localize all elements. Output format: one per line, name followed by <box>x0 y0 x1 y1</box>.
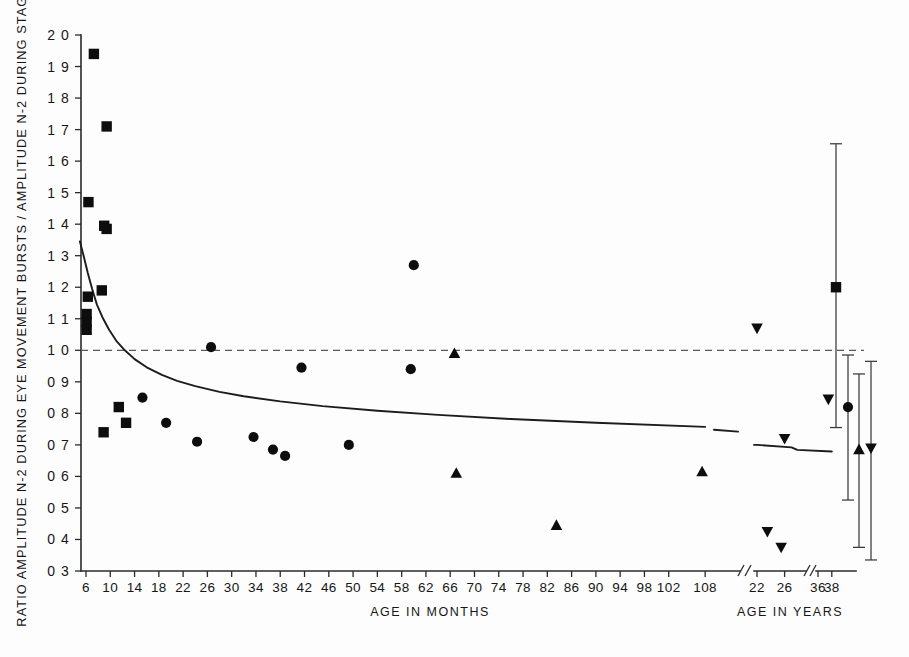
data-point-infants-10 <box>114 402 124 412</box>
x-tick-label-month-82: 82 <box>539 580 555 595</box>
error-bar-mean-adolescents <box>853 444 865 455</box>
x-tick-label-month-46: 46 <box>321 580 337 595</box>
x-tick-label-month-66: 66 <box>442 580 458 595</box>
x-tick-label-month-30: 30 <box>224 580 240 595</box>
y-tick-label-12: 0 8 <box>47 405 70 421</box>
data-point-children-0 <box>409 260 419 270</box>
x-tick-label-month-78: 78 <box>515 580 531 595</box>
x-tick-label-month-108: 108 <box>693 580 717 595</box>
data-point-children-3 <box>406 364 416 374</box>
data-point-adults-3 <box>762 527 774 538</box>
axis-break-slash-1 <box>745 565 751 576</box>
y-tick-label-11: 0 9 <box>47 374 70 390</box>
x-axis-title-months: AGE IN MONTHS <box>370 605 490 619</box>
data-point-children-9 <box>268 445 278 455</box>
axis-break-slash-3 <box>810 565 816 576</box>
data-point-children-1 <box>206 342 216 352</box>
data-point-adults-1 <box>823 395 835 406</box>
x-tick-label-month-58: 58 <box>394 580 410 595</box>
figure-container: 2 01 91 81 71 61 51 41 31 21 11 00 90 80… <box>0 0 909 657</box>
y-tick-label-15: 0 5 <box>47 500 70 516</box>
y-axis-title: RATIO AMPLITUDE N-2 DURING EYE MOVEMENT … <box>14 0 29 627</box>
data-point-infants-2 <box>83 197 93 207</box>
x-tick-label-month-6: 6 <box>82 580 90 595</box>
x-tick-label-month-62: 62 <box>418 580 434 595</box>
data-point-adults-0 <box>751 324 763 335</box>
y-tick-label-17: 0 3 <box>47 563 70 579</box>
y-tick-label-14: 0 6 <box>47 468 70 484</box>
x-tick-label-month-74: 74 <box>491 580 507 595</box>
data-point-children-10 <box>280 451 290 461</box>
x-tick-label-month-34: 34 <box>248 580 264 595</box>
x-tick-label-month-98: 98 <box>637 580 653 595</box>
y-tick-label-16: 0 4 <box>47 531 70 547</box>
data-point-adolescents-1 <box>450 467 462 478</box>
data-point-adolescents-3 <box>696 466 708 477</box>
data-point-children-8 <box>344 440 354 450</box>
y-tick-label-1: 1 9 <box>47 59 70 75</box>
y-tick-label-8: 1 2 <box>47 279 70 295</box>
data-point-adolescents-2 <box>551 519 563 530</box>
x-tick-label-month-90: 90 <box>588 580 604 595</box>
data-point-infants-5 <box>97 285 107 295</box>
fit-curve-stub <box>714 430 738 432</box>
data-point-children-7 <box>192 437 202 447</box>
data-point-children-2 <box>296 363 306 373</box>
y-tick-label-2: 1 8 <box>47 90 70 106</box>
data-point-adults-2 <box>779 434 791 445</box>
x-tick-label-month-22: 22 <box>175 580 191 595</box>
fit-curve-months <box>80 242 705 427</box>
data-point-infants-6 <box>83 291 93 301</box>
error-bar-mean-infants <box>831 282 841 292</box>
y-tick-label-7: 1 3 <box>47 248 70 264</box>
x-tick-label-month-14: 14 <box>127 580 143 595</box>
error-bar-mean-adults <box>865 443 877 454</box>
data-point-children-4 <box>137 392 147 402</box>
x-tick-label-month-70: 70 <box>467 580 483 595</box>
x-tick-label-month-42: 42 <box>297 580 313 595</box>
x-tick-label-month-86: 86 <box>564 580 580 595</box>
y-tick-label-13: 0 7 <box>47 437 70 453</box>
x-tick-label-year-26: 26 <box>777 580 793 595</box>
x-tick-label-month-94: 94 <box>612 580 628 595</box>
x-tick-label-month-26: 26 <box>199 580 215 595</box>
y-tick-label-0: 2 0 <box>47 27 70 43</box>
y-tick-label-10: 1 0 <box>47 342 70 358</box>
data-point-infants-4 <box>101 224 111 234</box>
y-tick-label-4: 1 6 <box>47 153 70 169</box>
y-tick-label-3: 1 7 <box>47 122 70 138</box>
scatter-plot: 2 01 91 81 71 61 51 41 31 21 11 00 90 80… <box>0 0 909 657</box>
y-tick-label-9: 1 1 <box>47 311 70 327</box>
fit-curve-years <box>754 445 832 452</box>
x-tick-label-month-38: 38 <box>272 580 288 595</box>
x-tick-label-month-50: 50 <box>345 580 361 595</box>
y-tick-label-6: 1 4 <box>47 216 70 232</box>
data-point-infants-12 <box>98 427 108 437</box>
data-point-infants-1 <box>101 121 111 131</box>
data-point-infants-11 <box>121 418 131 428</box>
data-point-infants-0 <box>89 49 99 59</box>
x-tick-label-year-38: 38 <box>824 580 840 595</box>
x-tick-label-month-102: 102 <box>657 580 681 595</box>
data-point-adults-4 <box>775 543 787 554</box>
x-tick-label-month-10: 10 <box>102 580 118 595</box>
y-tick-label-5: 1 5 <box>47 185 70 201</box>
data-point-infants-9 <box>81 325 91 335</box>
error-bar-mean-children <box>843 402 853 412</box>
x-tick-label-month-54: 54 <box>369 580 385 595</box>
data-point-children-5 <box>161 418 171 428</box>
data-point-adolescents-0 <box>449 347 461 358</box>
x-tick-label-year-22: 22 <box>749 580 765 595</box>
data-point-children-6 <box>248 432 258 442</box>
x-axis-title-years: AGE IN YEARS <box>737 605 843 619</box>
x-tick-label-month-18: 18 <box>151 580 167 595</box>
